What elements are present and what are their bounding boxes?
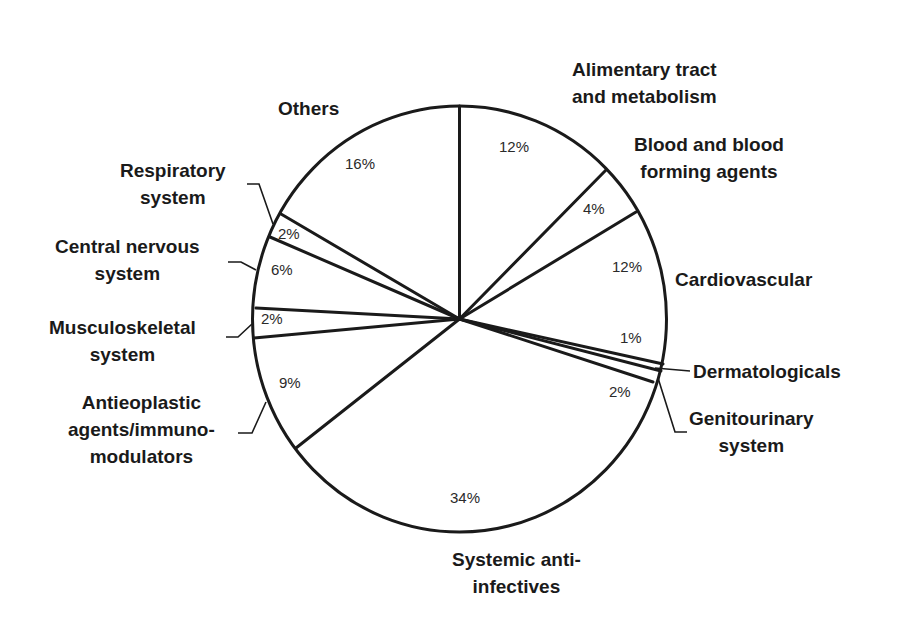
label-alimentary-line2: and metabolism [572, 83, 717, 110]
pct-alimentary: 12% [499, 138, 529, 155]
label-alimentary-line1: Alimentary tract [572, 56, 717, 83]
label-musculo-line1: Musculoskeletal [49, 314, 196, 341]
label-musculo: Musculoskeletal system [49, 314, 196, 368]
label-blood-line1: Blood and blood [634, 131, 784, 158]
label-genito: Genitourinary system [689, 405, 814, 459]
label-resp: Respiratory system [120, 157, 226, 211]
leader-cns [228, 262, 256, 270]
label-antineo-line2: agents/immuno- [68, 416, 215, 443]
pct-genito: 2% [609, 383, 631, 400]
label-cardio-line1: Cardiovascular [675, 266, 812, 293]
label-others: Others [278, 95, 339, 122]
pct-cns: 6% [271, 261, 293, 278]
label-derm: Dermatologicals [693, 358, 841, 385]
label-blood-line2: forming agents [634, 158, 784, 185]
label-systemic-line2: infectives [452, 573, 581, 600]
label-genito-line2: system [689, 432, 814, 459]
label-antineo-line3: modulators [68, 443, 215, 470]
label-cns-line2: system [55, 260, 200, 287]
label-derm-line1: Dermatologicals [693, 358, 841, 385]
pct-musculo: 2% [261, 310, 283, 327]
label-alimentary: Alimentary tract and metabolism [572, 56, 717, 110]
leader-antineo [238, 402, 266, 433]
label-musculo-line2: system [49, 341, 196, 368]
label-antineo-line1: Antieoplastic [68, 389, 215, 416]
pct-blood: 4% [583, 200, 605, 217]
label-antineo: Antieoplastic agents/immuno- modulators [68, 389, 215, 470]
leader-musculo [226, 324, 252, 337]
label-others-line1: Others [278, 95, 339, 122]
label-systemic: Systemic anti- infectives [452, 546, 581, 600]
label-blood: Blood and blood forming agents [634, 131, 784, 185]
leader-genito [658, 378, 687, 432]
label-cardio: Cardiovascular [675, 266, 812, 293]
pct-antineo: 9% [279, 374, 301, 391]
pct-resp: 2% [278, 225, 300, 242]
pie-body [253, 106, 667, 532]
label-genito-line1: Genitourinary [689, 405, 814, 432]
leader-respiratory [247, 184, 273, 224]
pct-derm: 1% [620, 329, 642, 346]
label-systemic-line1: Systemic anti- [452, 546, 581, 573]
label-resp-line1: Respiratory [120, 157, 226, 184]
pct-others: 16% [345, 155, 375, 172]
pct-systemic: 34% [450, 489, 480, 506]
label-resp-line2: system [120, 184, 226, 211]
label-cns: Central nervous system [55, 233, 200, 287]
pct-cardio: 12% [612, 258, 642, 275]
label-cns-line1: Central nervous [55, 233, 200, 260]
